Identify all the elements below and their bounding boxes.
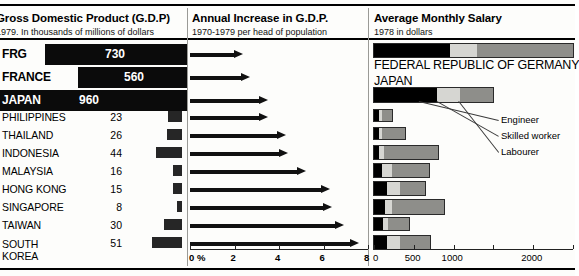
salary-country-frg: FEDERAL REPUBLIC OF GERMANY bbox=[374, 59, 579, 72]
salary-bar-outline bbox=[373, 43, 574, 58]
increase-arrow bbox=[190, 113, 268, 122]
gdp-panel-title: Gross Domestic Product (G.D.P) bbox=[0, 12, 170, 24]
gdp-country-label: FRANCE bbox=[2, 71, 51, 84]
arrow-head-icon bbox=[259, 96, 268, 104]
axis-tick bbox=[190, 245, 191, 249]
gdp-bar bbox=[177, 201, 182, 212]
axis-tick bbox=[279, 245, 280, 249]
arrow-head-icon bbox=[277, 131, 286, 139]
salary-bar-outline bbox=[373, 199, 445, 215]
axis-tick-label: 500 bbox=[405, 253, 421, 263]
axis-tick bbox=[573, 245, 574, 249]
gdp-country-label: FRG bbox=[2, 48, 27, 61]
arrow-head-icon bbox=[234, 50, 243, 58]
increase-arrow bbox=[190, 50, 243, 59]
increase-arrow bbox=[190, 203, 332, 212]
gdp-value: 730 bbox=[105, 48, 125, 61]
arrow-shaft bbox=[190, 134, 277, 138]
arrow-head-icon bbox=[321, 185, 330, 193]
axis-tick bbox=[374, 245, 375, 249]
axis-tick-label: 2000 bbox=[521, 253, 542, 263]
arrow-shaft bbox=[190, 116, 259, 120]
gdp-value: 8 bbox=[88, 202, 122, 213]
gdp-country-label: SINGAPORE bbox=[2, 202, 64, 213]
arrow-head-icon bbox=[323, 203, 332, 211]
salary-bar-outline bbox=[373, 235, 431, 250]
salary-axis-line bbox=[374, 249, 573, 250]
axis-tick bbox=[454, 245, 455, 249]
increase-arrow bbox=[190, 221, 344, 230]
axis-tick-label: 4 bbox=[275, 253, 280, 263]
salary-bar-outline bbox=[373, 127, 406, 140]
gdp-value: 16 bbox=[88, 166, 122, 177]
arrow-shaft bbox=[190, 152, 279, 156]
arrow-shaft bbox=[190, 242, 350, 246]
gdp-value: 44 bbox=[88, 148, 122, 159]
header-rule bbox=[0, 38, 575, 40]
gdp-value: 23 bbox=[88, 112, 122, 123]
axis-tick-label: 0 % bbox=[189, 253, 205, 263]
gdp-country-label: JAPAN bbox=[2, 94, 41, 107]
axis-tick bbox=[368, 245, 369, 249]
gdp-country-label: SOUTHKOREA bbox=[2, 238, 38, 262]
increase-panel-subtitle: 1970-1979 per head of population bbox=[192, 27, 327, 37]
increase-arrow bbox=[190, 131, 286, 140]
salary-bar-outline bbox=[373, 87, 494, 103]
gdp-country-label: PHILIPPINES bbox=[2, 112, 66, 123]
gdp-panel-subtitle: 1979. In thousands of millions of dollar… bbox=[0, 27, 154, 37]
axis-tick bbox=[493, 245, 494, 249]
arrow-shaft bbox=[190, 76, 241, 80]
increase-arrow bbox=[190, 239, 359, 248]
legend-leader-line-engineer bbox=[419, 101, 499, 121]
legend-label-skilled: Skilled worker bbox=[501, 131, 560, 141]
bottom-rule bbox=[0, 268, 575, 270]
axis-tick bbox=[414, 245, 415, 249]
arrow-head-icon bbox=[241, 73, 250, 81]
gdp-value: 51 bbox=[88, 238, 122, 249]
increase-arrow bbox=[190, 96, 268, 105]
gdp-value: 15 bbox=[88, 184, 122, 195]
salary-bar-outline bbox=[373, 163, 430, 178]
axis-tick-label: 6 bbox=[320, 253, 325, 263]
increase-arrow bbox=[190, 73, 250, 82]
salary-country-japan: JAPAN bbox=[374, 75, 412, 88]
gdp-bar bbox=[152, 237, 182, 248]
salary-bar-outline bbox=[373, 181, 426, 196]
gdp-country-label: THAILAND bbox=[2, 130, 53, 141]
arrow-head-icon bbox=[335, 221, 344, 229]
increase-axis-line bbox=[190, 249, 368, 250]
axis-tick bbox=[324, 245, 325, 249]
gdp-bar bbox=[164, 219, 182, 230]
gdp-country-label: HONG KONG bbox=[2, 184, 66, 195]
salary-bar-outline bbox=[373, 109, 393, 122]
gdp-bar bbox=[173, 183, 182, 194]
legend-label-engineer: Engineer bbox=[501, 115, 539, 125]
axis-tick-label: 0 bbox=[373, 253, 378, 263]
axis-tick-label: 1000 bbox=[442, 253, 463, 263]
arrow-shaft bbox=[190, 170, 297, 174]
arrow-shaft bbox=[190, 99, 259, 103]
gdp-value: 30 bbox=[88, 220, 122, 231]
axis-tick-label: 8 bbox=[364, 253, 369, 263]
increase-arrow bbox=[190, 185, 330, 194]
arrow-shaft bbox=[190, 188, 321, 192]
panel-divider-1 bbox=[187, 8, 188, 266]
axis-tick bbox=[235, 245, 236, 249]
salary-bar-outline bbox=[373, 217, 410, 231]
legend-leader-line-labourer bbox=[458, 101, 499, 153]
increase-arrow bbox=[190, 167, 306, 176]
salary-panel-subtitle: 1978 in dollars bbox=[374, 27, 433, 37]
arrow-head-icon bbox=[259, 113, 268, 121]
gdp-bar bbox=[173, 165, 182, 176]
salary-bar-outline bbox=[373, 145, 439, 160]
gdp-country-label: INDONESIA bbox=[2, 148, 59, 159]
panel-divider-2 bbox=[368, 8, 369, 266]
gdp-country-label: TAIWAN bbox=[2, 220, 41, 231]
axis-tick bbox=[533, 245, 534, 249]
legend-label-labourer: Labourer bbox=[501, 147, 539, 157]
top-rule bbox=[0, 4, 575, 6]
salary-panel-title: Average Monthly Salary bbox=[374, 12, 502, 24]
arrow-head-icon bbox=[350, 239, 359, 247]
arrow-shaft bbox=[190, 53, 234, 57]
increase-arrow bbox=[190, 149, 288, 158]
